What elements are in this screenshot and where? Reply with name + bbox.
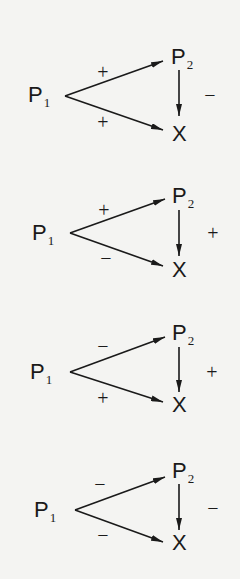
sign-p1-to-x: −: [100, 248, 111, 268]
arrow-p1-to-x: [75, 510, 163, 542]
sign-p2-to-x: −: [207, 498, 218, 518]
sign-p2-to-x: +: [206, 362, 217, 382]
arrow-p1-to-x: [70, 233, 163, 266]
node-p1: P1: [28, 84, 50, 106]
sign-p1-to-x: −: [97, 525, 108, 545]
node-p1: P1: [34, 499, 56, 521]
sign-p1-to-p2: −: [94, 474, 105, 494]
node-x: X: [172, 123, 187, 145]
node-p2: P2: [172, 185, 194, 207]
node-p2: P2: [172, 460, 194, 482]
diagram-3-arrows: [70, 337, 179, 402]
arrow-p1-to-p2: [70, 199, 165, 233]
node-p2: P2: [171, 46, 193, 68]
node-x: X: [172, 532, 187, 554]
diagram-4-arrows: [75, 477, 179, 542]
diagram-1-arrows: [65, 61, 179, 130]
sign-p2-to-x: −: [204, 85, 215, 105]
node-p1: P1: [32, 222, 54, 244]
sign-p1-to-p2: +: [98, 200, 109, 220]
sign-p2-to-x: +: [207, 223, 218, 243]
node-x: X: [172, 259, 187, 281]
sign-p1-to-x: +: [97, 112, 108, 132]
sign-p1-to-x: +: [97, 388, 108, 408]
sign-p1-to-p2: −: [97, 336, 108, 356]
node-p2: P2: [172, 322, 194, 344]
arrow-p1-to-p2: [75, 477, 165, 510]
arrow-p1-to-p2: [70, 337, 165, 372]
arrow-p1-to-p2: [65, 61, 163, 96]
arrow-p1-to-x: [65, 96, 163, 130]
sign-p1-to-p2: +: [97, 62, 108, 82]
node-p1: P1: [30, 361, 52, 383]
node-x: X: [172, 394, 187, 416]
diagram-2-arrows: [70, 199, 179, 266]
arrow-p1-to-x: [70, 372, 163, 402]
